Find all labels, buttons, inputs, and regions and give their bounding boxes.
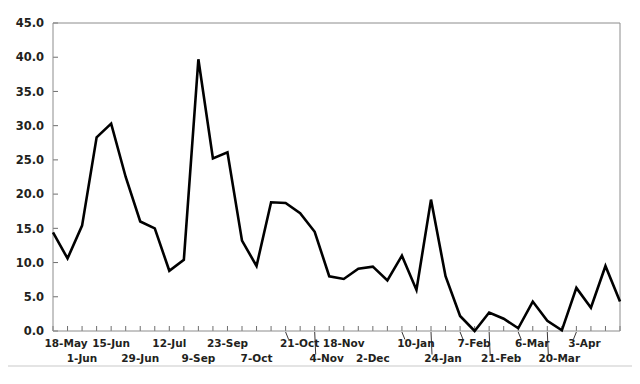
line-chart-figure: 0.05.010.015.020.025.030.035.040.045.0 1… [0, 0, 640, 384]
y-axis-tick-label: 0.0 [24, 324, 44, 338]
x-axis-tick-label: 18-May [44, 337, 87, 349]
x-axis-tick-label: 9-Sep [181, 352, 215, 364]
y-axis-tick-label: 20.0 [16, 187, 44, 201]
y-axis-tick-label: 35.0 [16, 85, 44, 99]
y-axis-tick-label: 15.0 [16, 222, 44, 236]
x-axis-tick-label: 20-Mar [538, 352, 581, 364]
x-axis-tick-label: 4-Nov [309, 352, 344, 364]
y-axis-tick-label: 25.0 [16, 153, 44, 167]
chart-canvas: 0.05.010.015.020.025.030.035.040.045.0 1… [0, 0, 640, 384]
x-axis-tick-label: 2-Dec [356, 352, 390, 364]
x-axis-tick-label: 23-Sep [207, 337, 249, 349]
x-axis-tick-label: 7-Oct [241, 352, 273, 364]
x-axis-tick-label: 10-Jan [397, 337, 434, 349]
x-axis-tick-label: 21-Feb [481, 352, 522, 364]
x-axis-tick-label: 29-Jun [121, 352, 159, 364]
chart-background [0, 0, 640, 384]
x-axis-tick-label: 21-Oct [280, 337, 319, 349]
x-axis-tick-label: 18-Nov [323, 337, 365, 349]
y-axis-tick-label: 10.0 [16, 256, 44, 270]
y-axis-tick-label: 45.0 [16, 16, 44, 30]
x-axis-tick-label: 24-Jan [424, 352, 461, 364]
x-axis-tick-label: 6-Mar [515, 337, 550, 349]
x-axis-tick-label: 7-Feb [458, 337, 492, 349]
y-axis-tick-label: 40.0 [16, 50, 44, 64]
x-axis-tick-label: 1-Jun [67, 352, 98, 364]
x-axis-tick-label: 12-Jul [152, 337, 186, 349]
x-axis-tick-label: 15-Jun [92, 337, 130, 349]
y-axis-tick-label: 5.0 [24, 290, 44, 304]
y-axis-tick-label: 30.0 [16, 119, 44, 133]
x-axis-tick-label: 3-Apr [568, 337, 601, 349]
